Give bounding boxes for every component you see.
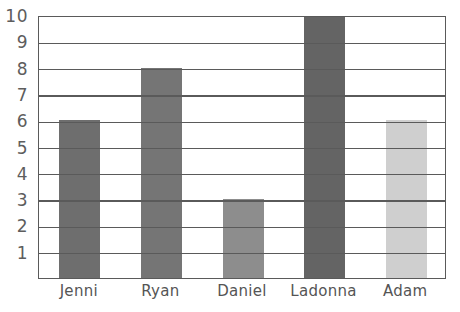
bar: [223, 199, 264, 278]
x-axis-tick-label: Daniel: [217, 283, 267, 300]
gridline: [39, 69, 445, 70]
gridline: [39, 148, 445, 149]
x-axis: JenniRyanDanielLadonnaAdam: [38, 283, 446, 309]
y-axis-tick-label: 5: [17, 139, 28, 156]
y-axis-tick-label: 4: [17, 165, 28, 182]
y-axis-tick-label: 6: [17, 113, 28, 130]
y-axis-tick-label: 3: [17, 192, 28, 209]
x-axis-tick-label: Jenni: [60, 283, 98, 300]
gridline: [39, 227, 445, 228]
gridline: [39, 122, 445, 123]
x-axis-tick-label: Ladonna: [290, 283, 357, 300]
y-axis-tick-label: 1: [17, 244, 28, 261]
gridline: [39, 253, 445, 254]
chart-title: [10, 0, 450, 5]
gridline: [39, 174, 445, 175]
y-axis-tick-label: 2: [17, 218, 28, 235]
gridline: [39, 200, 445, 201]
y-axis-tick-label: 9: [17, 34, 28, 51]
plot-area: [38, 16, 446, 279]
y-axis-tick-label: 10: [5, 8, 28, 25]
x-axis-tick-label: Adam: [383, 283, 428, 300]
y-axis-tick-label: 7: [17, 86, 28, 103]
bar-chart: 12345678910 JenniRyanDanielLadonnaAdam: [0, 0, 460, 312]
bar: [141, 68, 182, 278]
gridline: [39, 95, 445, 96]
y-axis: 12345678910: [0, 16, 34, 279]
x-axis-tick-label: Ryan: [141, 283, 179, 300]
gridline: [39, 43, 445, 44]
y-axis-tick-label: 8: [17, 60, 28, 77]
